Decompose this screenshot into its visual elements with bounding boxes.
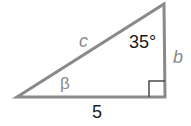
top-angle-label: 35° (129, 32, 156, 52)
vertical-side-label: b (173, 47, 183, 67)
right-angle-marker (149, 81, 165, 97)
beta-angle-label: β (60, 74, 70, 93)
right-triangle-diagram: c 35° b β 5 (0, 0, 191, 126)
base-label: 5 (92, 102, 102, 122)
hypotenuse-label: c (79, 31, 88, 51)
